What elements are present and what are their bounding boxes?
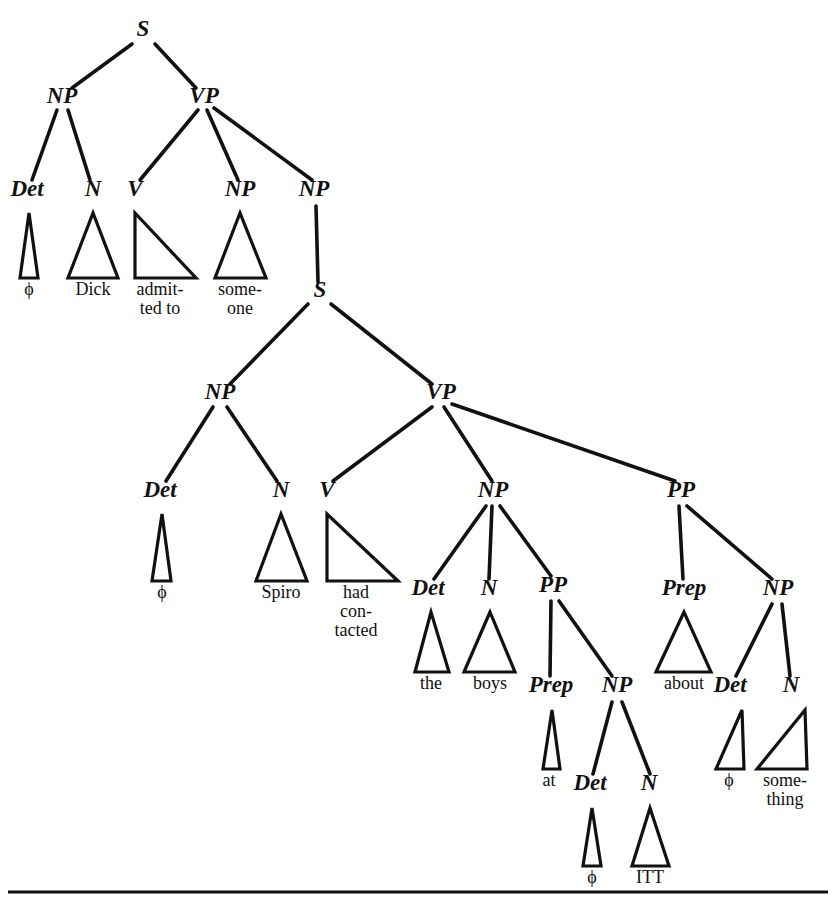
node-label-np: NP	[477, 477, 510, 502]
node-label-det: Det	[9, 176, 44, 201]
tree-branch	[166, 407, 213, 481]
tree-branch	[736, 604, 772, 676]
tree-branch	[72, 44, 132, 88]
terminal-triangle	[464, 612, 515, 672]
terminal-word: hadcon-tacted	[335, 582, 378, 640]
tree-branch	[316, 206, 318, 282]
terminal-triangle	[215, 213, 266, 278]
node-label-n: N	[272, 477, 291, 502]
tree-branch	[214, 108, 312, 180]
terminal-word: Dick	[76, 279, 111, 299]
node-label-np: NP	[224, 176, 257, 201]
terminal-word: boys	[473, 673, 507, 693]
tree-branch	[227, 407, 277, 481]
tree-branch	[782, 604, 790, 676]
terminal-word: ITT	[636, 867, 664, 887]
tree-branch	[687, 506, 772, 579]
terminal-word: at	[543, 770, 556, 790]
terminal-triangle	[68, 213, 118, 278]
terminal-word: some-thing	[763, 770, 807, 809]
node-label-prep: Prep	[528, 672, 574, 697]
terminal-word: the	[420, 673, 442, 693]
tree-branch	[622, 702, 650, 774]
node-label-vp: VP	[426, 379, 456, 404]
tree-branch	[559, 601, 612, 676]
terminal-word: about	[664, 673, 704, 693]
node-label-det: Det	[712, 672, 747, 697]
tree-branch	[155, 44, 196, 88]
tree-branch	[68, 110, 90, 180]
terminal-triangle	[135, 213, 196, 278]
node-label-n: N	[480, 575, 499, 600]
node-label-v: V	[319, 477, 336, 502]
node-label-prep: Prep	[661, 575, 707, 600]
terminal-triangle	[20, 213, 38, 278]
terminal-word: ϕ	[587, 867, 596, 887]
tree-branch	[434, 506, 486, 579]
node-label-pp: PP	[538, 572, 568, 597]
node-label-n: N	[782, 672, 801, 697]
node-label-np: NP	[762, 575, 795, 600]
node-label-v: V	[127, 176, 144, 201]
node-label-vp: VP	[189, 83, 219, 108]
terminal-triangle	[632, 808, 669, 866]
tree-branch	[593, 702, 612, 774]
tree-branch	[32, 110, 57, 180]
tree-branch	[333, 407, 432, 481]
terminal-triangle	[656, 612, 711, 672]
tree-branch	[550, 601, 551, 676]
node-label-s: S	[314, 277, 327, 302]
tree-branch	[500, 506, 551, 576]
node-label-n: N	[84, 176, 103, 201]
terminal-word: ϕ	[157, 582, 166, 602]
terminal-word: admit-ted to	[137, 279, 184, 318]
tree-branch	[679, 506, 683, 579]
node-label-s: S	[137, 16, 150, 41]
tree-branches-group	[32, 44, 790, 774]
node-label-np: NP	[298, 176, 331, 201]
node-label-n: N	[640, 770, 659, 795]
terminal-triangle	[583, 808, 601, 866]
terminal-triangle	[415, 612, 449, 672]
node-label-np: NP	[204, 379, 237, 404]
terminal-word: Spiro	[261, 582, 300, 602]
node-label-det: Det	[572, 770, 607, 795]
terminal-triangle	[757, 710, 807, 769]
node-label-pp: PP	[666, 477, 696, 502]
terminal-triangle	[327, 514, 398, 581]
terminal-triangles-group	[20, 213, 807, 866]
terminal-triangle	[256, 514, 307, 581]
terminal-word: some-one	[218, 279, 262, 318]
terminal-triangle	[543, 710, 560, 769]
node-label-np: NP	[46, 83, 79, 108]
node-label-det: Det	[142, 477, 177, 502]
tree-branch	[444, 407, 492, 481]
node-label-np: NP	[601, 672, 634, 697]
tree-branch	[331, 304, 432, 384]
syntax-tree-diagram: SNPVPDetNVNPNPSNPVPDetNVNPPPDetNPPPrepNP…	[0, 0, 833, 907]
tree-branch	[489, 506, 492, 579]
tree-branch	[140, 110, 198, 180]
terminal-word: ϕ	[24, 279, 33, 299]
node-label-det: Det	[410, 575, 445, 600]
terminal-word: ϕ	[724, 770, 733, 790]
figure-page: SNPVPDetNVNPNPSNPVPDetNVNPPPDetNPPPrepNP…	[0, 0, 833, 907]
terminal-triangle	[152, 514, 171, 581]
terminal-triangle	[716, 710, 744, 769]
